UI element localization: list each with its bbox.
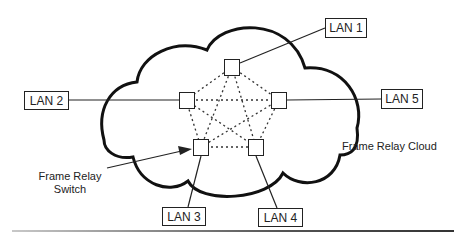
switch-right (271, 92, 287, 109)
bottom-rule (12, 230, 454, 232)
link-lan1 (240, 28, 325, 63)
virtual-circuit-mesh (186, 67, 279, 147)
lan-3-box: LAN 3 (162, 207, 206, 226)
switch-left (179, 92, 195, 109)
lan-4-box: LAN 4 (258, 208, 303, 227)
diagram-canvas (0, 0, 465, 246)
switch-pointer-arrow (107, 150, 186, 168)
switch-top (224, 59, 240, 76)
arrowhead-icon (178, 146, 192, 155)
switch-bottom-left (193, 139, 209, 156)
frame-relay-cloud (102, 28, 359, 197)
switch-label: Frame Relay Switch (30, 170, 110, 196)
cloud-label: Frame Relay Cloud (342, 140, 437, 153)
link-lan5 (287, 99, 381, 100)
lan-1-box: LAN 1 (325, 18, 367, 38)
switch-label-line2: Switch (30, 183, 110, 196)
switch-bottom-right (248, 139, 264, 156)
switch-label-line1: Frame Relay (30, 170, 110, 183)
lan-5-box: LAN 5 (381, 89, 423, 109)
lan-2-box: LAN 2 (24, 91, 69, 110)
